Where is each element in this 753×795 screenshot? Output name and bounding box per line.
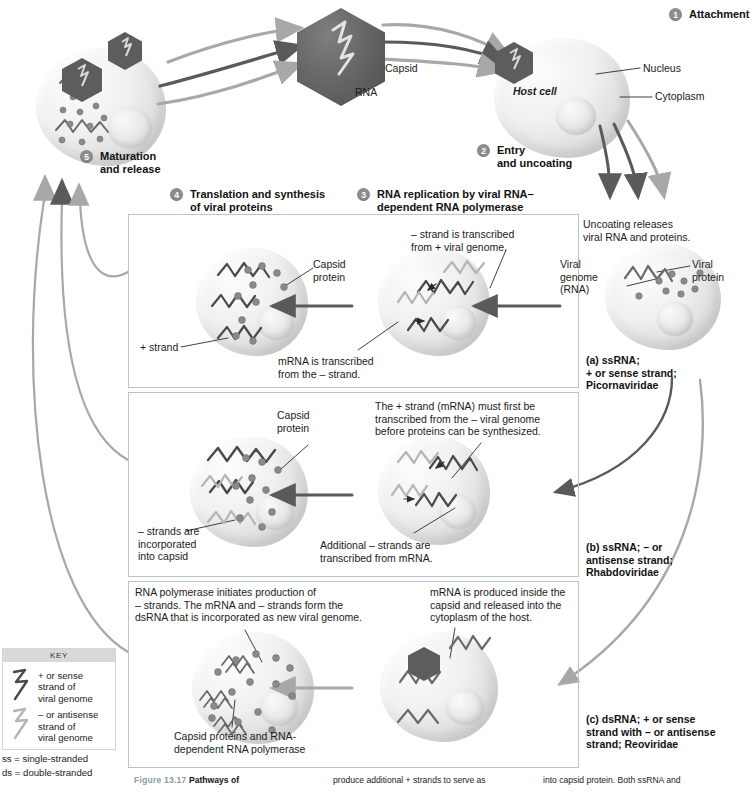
panel-a-capsid-protein-label: Capsid protein: [313, 258, 346, 283]
key-legend: KEY + or sense strand of viral genome – …: [2, 648, 116, 750]
panel-b-note-bottom: Additional – strands are transcribed fro…: [320, 539, 433, 564]
figure-canvas: 1 Attachment 2 Entry and uncoating 3 RNA…: [0, 0, 753, 795]
uncoating-note: Uncoating releases viral RNA and protein…: [583, 218, 690, 243]
step-5-label: Maturation and release: [100, 150, 161, 176]
panel-b-group-label: (b) ssRNA; – or antisense strand; Rhabdo…: [586, 541, 673, 579]
step-1: 1 Attachment: [669, 8, 750, 21]
panel-a-note-bottom: mRNA is transcribed from the – strand.: [278, 355, 374, 380]
figure-title: Pathways of: [189, 775, 239, 785]
panel-c-note-top-left: RNA polymerase initiates production of –…: [135, 586, 362, 624]
step-3-label: RNA replication by viral RNA– dependent …: [377, 188, 534, 214]
key-ds-label: ds = double-stranded: [2, 766, 92, 779]
step-3-badge: 3: [357, 188, 370, 201]
released-virion-1: [108, 32, 142, 70]
key-title: KEY: [3, 649, 115, 662]
step-5: 5 Maturation and release: [80, 150, 161, 176]
step-2-badge: 2: [477, 144, 490, 157]
viral-protein-label: Viral protein: [692, 258, 724, 283]
rna-label: RNA: [355, 86, 377, 99]
step-1-badge: 1: [669, 8, 682, 21]
key-ss-label: ss = single-stranded: [2, 752, 88, 765]
key-plus-strand-icon: [8, 668, 34, 704]
maturing-virion-2: [62, 58, 102, 102]
key-minus-strand-label: – or antisense strand of viral genome: [38, 707, 98, 743]
panel-c-group-label: (c) dsRNA; + or sense strand with – or a…: [586, 713, 716, 751]
step-4-label: Translation and synthesis of viral prote…: [190, 188, 325, 214]
step-5-badge: 5: [80, 150, 93, 163]
panel-c-bottom-label: Capsid proteins and RNA- dependent RNA p…: [174, 730, 305, 755]
attached-virion: [495, 42, 533, 84]
panel-b-minus-strands-label: – strands are incorporated into capsid: [138, 525, 199, 563]
panel-a-group-label: (a) ssRNA; + or sense strand; Picornavir…: [586, 354, 677, 392]
capsid-label: Capsid: [385, 62, 418, 75]
nucleus-label: Nucleus: [643, 62, 681, 75]
figure-caption-col1: Figure 13.17 Pathways of: [134, 775, 304, 786]
step-1-label: Attachment: [689, 8, 750, 21]
step-2-label: Entry and uncoating: [497, 144, 572, 170]
panel-b-capsid-protein-label: Capsid protein: [277, 409, 310, 434]
key-minus-strand-icon: [8, 707, 34, 743]
panel-b-note-top-right: The + strand (mRNA) must first be transc…: [375, 400, 541, 438]
step-4: 4 Translation and synthesis of viral pro…: [170, 188, 325, 214]
viral-genome-label: Viral genome (RNA): [560, 258, 598, 296]
key-plus-strand-label: + or sense strand of viral genome: [38, 668, 93, 704]
panel-c-note-top-right: mRNA is produced inside the capsid and r…: [430, 586, 565, 624]
step-3: 3 RNA replication by viral RNA– dependen…: [357, 188, 534, 214]
figure-number: Figure 13.17: [134, 775, 187, 785]
host-cell-label: Host cell: [513, 85, 557, 98]
figure-caption-col3: into capsid protein. Both ssRNA and: [543, 775, 753, 786]
cytoplasm-label: Cytoplasm: [655, 90, 705, 103]
panel-a-note-top-right: – strand is transcribed from + viral gen…: [411, 228, 514, 253]
panel-a-plus-strand-label: + strand: [140, 341, 178, 354]
figure-caption-col2: produce additional + strands to serve as: [333, 775, 533, 786]
step-4-badge: 4: [170, 188, 183, 201]
step-2: 2 Entry and uncoating: [477, 144, 572, 170]
